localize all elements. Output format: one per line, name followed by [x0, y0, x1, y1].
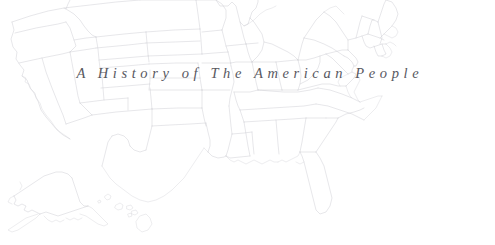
map-alaska	[8, 172, 108, 232]
us-outline-map	[0, 0, 495, 245]
book-cover-map-page: A History of The American People	[0, 0, 495, 245]
map-contiguous-states	[11, 0, 398, 214]
map-hawaii	[98, 194, 152, 232]
